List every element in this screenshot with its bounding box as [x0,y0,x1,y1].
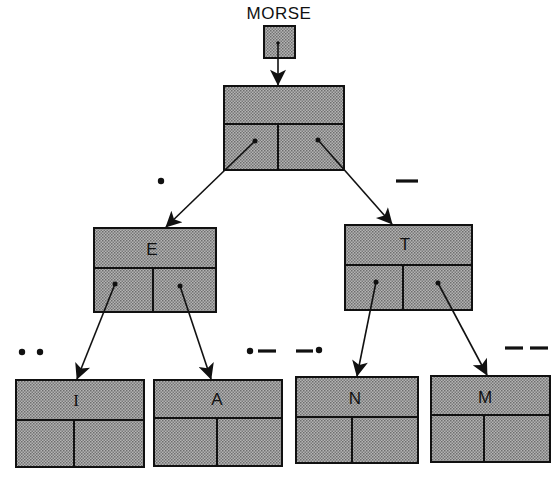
node-i: I [16,380,144,467]
node-letter-n: N [349,389,361,408]
node-e: E [94,228,216,312]
morse-label-dot-dot [19,349,43,355]
node-letter-e: E [146,240,157,259]
node-letter-a: A [211,390,223,409]
node-letter-t: T [400,235,410,254]
morse-label-dash-dot [296,347,322,353]
edge-root-e [166,141,255,227]
root-pointer [264,26,295,85]
morse-tree-diagram: MORSE E T I A [0,0,559,477]
node-m: M [431,376,550,462]
morse-label-dot [158,178,164,184]
node-n: N [296,377,418,463]
node-t: T [345,225,472,310]
morse-label-dot-dash [247,348,276,354]
node-a: A [154,380,282,466]
diagram-title: MORSE [247,4,312,23]
node-root [224,86,344,170]
node-letter-i: I [73,391,79,410]
edge-root-t [318,140,392,224]
node-letter-m: M [478,388,492,407]
